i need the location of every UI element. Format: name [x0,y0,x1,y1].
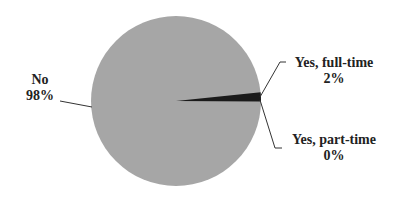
label-full-time-value: 2% [284,71,384,87]
leader-line-full-time [260,62,286,97]
label-part-time-value: 0% [278,148,390,164]
label-yes-full-time: Yes, full-time 2% [284,55,384,87]
label-no-value: 98% [20,88,60,104]
pie-chart: No 98% Yes, full-time 2% Yes, part-time … [0,0,397,202]
label-full-time-name: Yes, full-time [284,55,384,71]
label-no-name: No [20,72,60,88]
leader-line-no [60,101,92,107]
label-yes-part-time: Yes, part-time 0% [278,132,390,164]
label-part-time-name: Yes, part-time [278,132,390,148]
label-no: No 98% [20,72,60,104]
